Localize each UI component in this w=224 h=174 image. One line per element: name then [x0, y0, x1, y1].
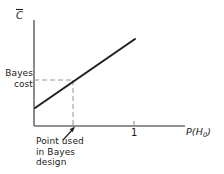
- annotation-line-3: design: [36, 157, 66, 167]
- x-axis-label-main: P(H: [186, 126, 203, 137]
- annotation-line-2: in Bayes: [36, 147, 75, 157]
- bayes-cost-line-2: cost: [14, 79, 33, 89]
- x-axis-label-close: ): [207, 126, 211, 137]
- x-axis-label: P(H0): [186, 127, 211, 139]
- y-axis-label-text: C: [16, 9, 23, 21]
- annotation-line-1: Point used: [36, 136, 84, 146]
- bayes-cost-line-1: Bayes: [5, 68, 33, 78]
- bayes-point-annotation: Point usedin Bayesdesign: [36, 136, 114, 168]
- y-axis-label: C: [16, 9, 23, 22]
- average-cost-line: [35, 39, 135, 108]
- bayes-cost-tick-label: Bayescost: [1, 68, 33, 89]
- x-tick-one-label: 1: [131, 128, 137, 139]
- x-axis-label-subscript: 0: [203, 131, 207, 139]
- bayes-cost-figure: C Bayescost 1 P(H0) Point usedin Bayesde…: [0, 0, 224, 174]
